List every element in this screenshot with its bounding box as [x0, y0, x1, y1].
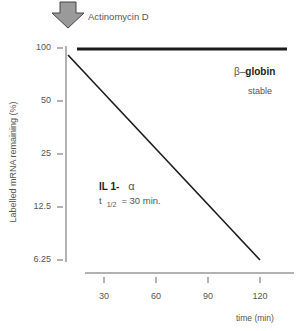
y-tick-100: 100 — [17, 42, 51, 52]
y-ticks — [57, 48, 63, 260]
x-axis-label: time (min) — [236, 313, 274, 323]
x-tick-60: 60 — [141, 291, 171, 301]
il1-name: IL 1- — [99, 181, 119, 192]
x-tick-30: 30 — [89, 291, 119, 301]
actinomycin-arrow-icon — [52, 2, 84, 28]
globin-name: globin — [245, 66, 275, 77]
half-life-value: = 30 min. — [121, 195, 160, 206]
x-ticks — [104, 277, 260, 283]
il1-alpha-label: IL 1- α — [99, 180, 135, 192]
alpha-symbol: α — [128, 180, 134, 192]
y-tick-6-25: 6.25 — [17, 254, 51, 264]
beta-prefix: β– — [234, 66, 245, 77]
il1-alpha-line — [68, 55, 260, 260]
y-tick-12-5: 12.5 — [17, 201, 51, 211]
y-tick-50: 50 — [17, 95, 51, 105]
beta-globin-note: stable — [248, 86, 272, 96]
y-axis-label: Labelled mRNA remaining (%) — [8, 87, 18, 237]
actinomycin-label: Actinomycin D — [88, 11, 149, 22]
beta-globin-label: β–globin — [234, 66, 275, 77]
x-tick-120: 120 — [245, 291, 275, 301]
half-subscript: 1/2 — [107, 201, 117, 208]
half-life-label: t1/2= 30 min. — [99, 195, 161, 208]
y-tick-25: 25 — [17, 148, 51, 158]
x-tick-90: 90 — [193, 291, 223, 301]
t-symbol: t — [99, 195, 102, 206]
